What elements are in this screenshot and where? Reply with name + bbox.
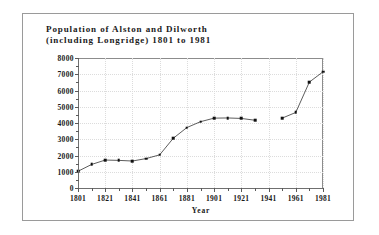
y-tick-label: 7000 [34, 70, 74, 79]
data-point-marker [308, 81, 311, 84]
data-point-marker [104, 159, 107, 162]
y-tick-label: 6000 [34, 86, 74, 95]
x-axis-title: Year [78, 206, 324, 215]
data-point-marker [131, 160, 134, 163]
x-tick-mark-minor [92, 188, 93, 191]
chart-title: Population of Alston and Dilworth (inclu… [46, 24, 306, 46]
y-tick-mark-minor [76, 180, 79, 181]
population-line-series [78, 58, 323, 188]
y-tick-label: 4000 [34, 119, 74, 128]
plot-area [78, 58, 323, 188]
y-tick-mark [75, 139, 79, 140]
x-axis-tick-labels: 1801182118411861188119011921194119611981 [78, 194, 323, 206]
y-tick-mark [75, 156, 79, 157]
x-tick-mark-minor [173, 188, 174, 191]
series-line-segment [282, 72, 323, 118]
x-tick-mark [132, 188, 133, 192]
series-line-segment [78, 118, 255, 171]
x-tick-mark-minor [255, 188, 256, 191]
data-point-marker [294, 111, 297, 114]
data-point-marker [240, 117, 243, 120]
data-point-marker [281, 117, 284, 120]
y-tick-mark-minor [76, 164, 79, 165]
y-tick-label: 8000 [34, 54, 74, 63]
y-tick-mark [75, 58, 79, 59]
x-tick-mark-minor [309, 188, 310, 191]
y-tick-label: 3000 [34, 135, 74, 144]
y-tick-mark [75, 74, 79, 75]
y-tick-mark [75, 91, 79, 92]
data-point-marker [186, 126, 189, 129]
y-tick-mark-minor [76, 82, 79, 83]
data-point-marker [254, 119, 257, 122]
x-tick-label: 1981 [303, 194, 343, 203]
y-tick-mark-minor [76, 115, 79, 116]
y-tick-mark [75, 107, 79, 108]
y-tick-mark-minor [76, 66, 79, 67]
y-tick-mark-minor [76, 99, 79, 100]
x-tick-mark-minor [282, 188, 283, 191]
y-tick-label: 0 [34, 184, 74, 193]
y-axis-tick-labels: 010002000300040005000600070008000 [36, 58, 74, 188]
y-tick-label: 2000 [34, 151, 74, 160]
x-tick-mark [269, 188, 270, 192]
data-point-marker [199, 120, 202, 123]
y-tick-mark [75, 123, 79, 124]
x-tick-mark [78, 188, 79, 192]
y-tick-label: 5000 [34, 102, 74, 111]
x-tick-mark [160, 188, 161, 192]
chart-figure: Population of Alston and Dilworth (inclu… [0, 0, 379, 235]
x-tick-mark [105, 188, 106, 192]
y-tick-mark-minor [76, 147, 79, 148]
data-point-marker [145, 157, 148, 160]
x-tick-mark [214, 188, 215, 192]
y-tick-label: 1000 [34, 167, 74, 176]
x-tick-mark [241, 188, 242, 192]
x-tick-mark-minor [119, 188, 120, 191]
data-point-marker [213, 117, 216, 120]
x-tick-mark [323, 188, 324, 192]
y-axis-tick-marks [74, 58, 80, 189]
data-point-marker [172, 137, 175, 140]
x-tick-mark [296, 188, 297, 192]
x-tick-mark-minor [228, 188, 229, 191]
data-point-marker [90, 163, 93, 166]
y-tick-mark [75, 172, 79, 173]
data-point-marker [118, 159, 121, 162]
y-tick-mark-minor [76, 131, 79, 132]
x-tick-mark [187, 188, 188, 192]
data-point-marker [158, 154, 161, 157]
x-tick-mark-minor [201, 188, 202, 191]
data-point-marker [226, 117, 229, 120]
data-point-marker [322, 71, 325, 74]
gridline-vertical [323, 58, 325, 188]
x-tick-mark-minor [146, 188, 147, 191]
